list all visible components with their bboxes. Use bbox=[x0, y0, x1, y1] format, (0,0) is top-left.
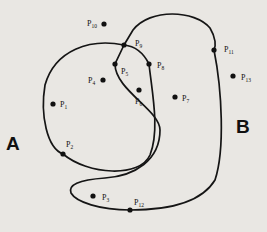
point-p10-dot bbox=[101, 21, 106, 26]
point-p5-label: P5 bbox=[121, 67, 128, 77]
point-p10-label: P10 bbox=[87, 19, 97, 29]
point-p6-dot bbox=[136, 87, 141, 92]
regions-layer: AB bbox=[6, 116, 250, 154]
point-p3-dot bbox=[90, 193, 95, 198]
point-p12-dot bbox=[127, 207, 132, 212]
point-p8-dot bbox=[146, 61, 151, 66]
point-p9-label: P9 bbox=[135, 39, 142, 49]
region-a-label: A bbox=[6, 133, 20, 154]
point-p4-label: P4 bbox=[88, 76, 95, 86]
point-p2-dot bbox=[60, 151, 65, 156]
point-p1-label: P1 bbox=[60, 100, 67, 110]
point-p2-label: P2 bbox=[66, 140, 73, 150]
point-p3-label: P3 bbox=[102, 193, 109, 203]
point-p1-dot bbox=[50, 101, 55, 106]
set-diagram: P1P2P3P4P5P6P7P8P9P10P11P12P13 AB bbox=[0, 0, 267, 232]
point-p13-dot bbox=[230, 73, 235, 78]
point-p5-dot bbox=[112, 61, 117, 66]
region-b-label: B bbox=[236, 116, 250, 137]
point-p6-label: P6 bbox=[135, 97, 142, 107]
point-p8-label: P8 bbox=[157, 61, 164, 71]
point-p7-label: P7 bbox=[182, 94, 189, 104]
point-p11-dot bbox=[211, 47, 216, 52]
point-p7-dot bbox=[172, 94, 177, 99]
point-p12-label: P12 bbox=[134, 198, 144, 208]
point-p11-label: P11 bbox=[224, 45, 234, 55]
point-p4-dot bbox=[100, 77, 105, 82]
point-p13-label: P13 bbox=[241, 73, 251, 83]
point-p9-dot bbox=[121, 42, 126, 47]
